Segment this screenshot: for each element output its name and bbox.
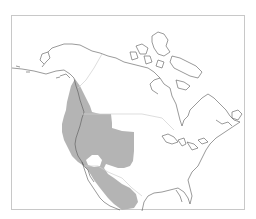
range-area [62,79,138,210]
alaska-canada-border [78,54,102,88]
north-america-map [12,16,246,211]
map-frame: North America range map [11,15,245,210]
coastline-layer [12,32,242,211]
